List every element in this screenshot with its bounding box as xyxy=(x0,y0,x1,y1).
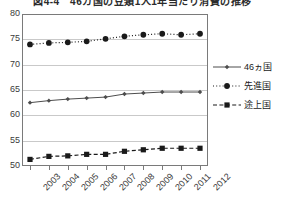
legend-label: 46ヵ国 xyxy=(244,63,272,72)
y-tick-label: 55 xyxy=(0,136,20,145)
legend-swatch-circle-icon xyxy=(212,80,242,92)
data-point xyxy=(46,154,51,159)
data-point xyxy=(224,102,229,107)
x-tick-label: 2011 xyxy=(193,172,213,192)
y-tick-label: 60 xyxy=(0,110,20,119)
x-tick-label: 2006 xyxy=(99,172,120,193)
x-tick-label: 2009 xyxy=(155,172,176,193)
data-point xyxy=(65,39,71,45)
series-46ヵ国 xyxy=(28,90,202,105)
x-axis: 2003200420052006200720082009201020112012 xyxy=(0,168,285,199)
data-point xyxy=(46,40,52,46)
x-tick-label: 2012 xyxy=(212,172,233,193)
y-tick-label: 75 xyxy=(0,34,20,43)
x-tick-label: 2010 xyxy=(174,172,195,193)
legend-item-46ヵ国[interactable]: 46ヵ国 xyxy=(212,60,285,74)
data-point xyxy=(198,90,202,94)
chart-figure: 図4-4 46カ国の豆類1人1年当たり消費の推移 80757065605550 … xyxy=(0,0,285,199)
data-point xyxy=(122,92,126,96)
x-tick-label: 2008 xyxy=(136,172,157,193)
data-point xyxy=(224,83,230,89)
data-point xyxy=(66,97,70,101)
legend-item-途上国[interactable]: 途上国 xyxy=(212,98,285,112)
series-途上国 xyxy=(27,146,202,162)
data-point xyxy=(179,146,184,151)
y-tick-label: 80 xyxy=(0,9,20,18)
data-point xyxy=(65,153,70,158)
data-point xyxy=(103,36,109,42)
data-point xyxy=(160,146,165,151)
data-point xyxy=(84,96,88,100)
data-point xyxy=(140,32,146,38)
series-line xyxy=(30,34,200,45)
chart-title-clipped: 図4-4 46カ国の豆類1人1年当たり消費の推移 xyxy=(0,0,285,7)
legend-swatch-diamond-icon xyxy=(212,61,242,73)
data-point xyxy=(28,100,32,104)
data-point xyxy=(178,32,184,38)
data-point xyxy=(103,95,107,99)
data-point xyxy=(141,147,146,152)
data-point xyxy=(27,157,32,162)
x-tick-label: 2007 xyxy=(117,172,138,193)
y-tick-label: 65 xyxy=(0,85,20,94)
series-先進国 xyxy=(27,31,203,47)
data-point xyxy=(160,90,164,94)
legend-label: 先進国 xyxy=(244,82,271,91)
x-tick-label: 2004 xyxy=(61,172,82,193)
data-point xyxy=(179,90,183,94)
legend-item-先進国[interactable]: 先進国 xyxy=(212,79,285,93)
data-point xyxy=(225,65,229,69)
data-point xyxy=(122,149,127,154)
data-point xyxy=(84,152,89,157)
y-axis: 80757065605550 xyxy=(0,14,20,166)
legend-swatch-square-icon xyxy=(212,99,242,111)
series-layer xyxy=(22,14,208,166)
legend-label: 途上国 xyxy=(244,101,271,110)
y-tick-label: 70 xyxy=(0,60,20,69)
data-point xyxy=(122,33,128,39)
data-point xyxy=(159,31,165,37)
x-tick-label: 2003 xyxy=(42,172,63,193)
data-point xyxy=(47,98,51,102)
data-point xyxy=(103,152,108,157)
data-point xyxy=(197,31,203,37)
page-title: 図4-4 46カ国の豆類1人1年当たり消費の推移 xyxy=(33,0,252,7)
series-line xyxy=(30,92,200,103)
data-point xyxy=(84,38,90,44)
x-tick-label: 2005 xyxy=(80,172,101,193)
data-point xyxy=(141,91,145,95)
series-line xyxy=(30,148,200,159)
data-point xyxy=(197,146,202,151)
data-point xyxy=(27,42,33,48)
chart-legend: 46ヵ国先進国途上国 xyxy=(212,60,285,112)
